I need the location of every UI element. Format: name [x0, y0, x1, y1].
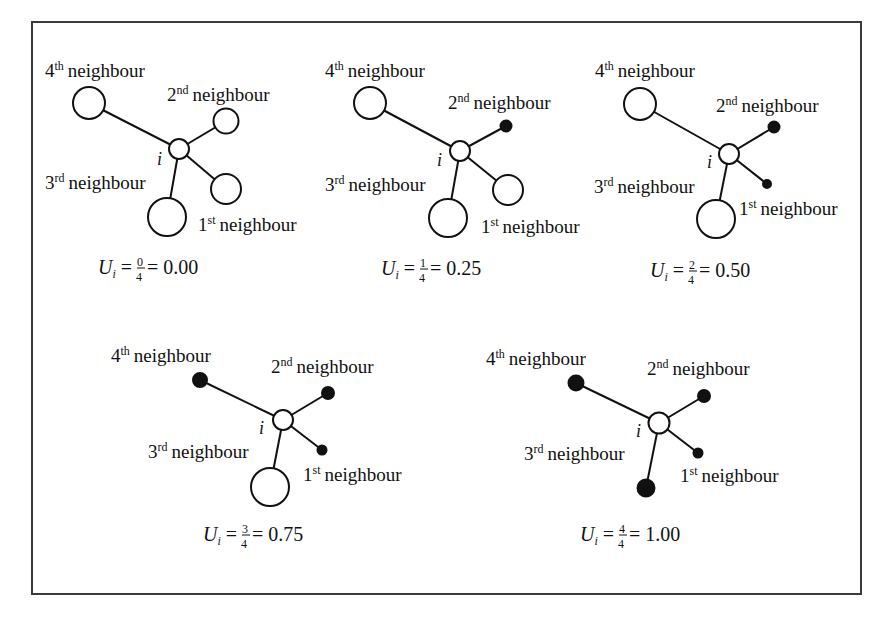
third-neighbour-node — [429, 199, 467, 237]
second-neighbour-label: 2ndneighbour — [647, 357, 750, 379]
panel-4 — [193, 373, 334, 506]
first-neighbour-label: 1stneighbour — [680, 464, 779, 486]
fourth-neighbour-node — [569, 376, 584, 391]
center-node-label: i — [259, 418, 264, 438]
second-neighbour-label: 2ndneighbour — [448, 91, 551, 113]
uncertainty-formula: Ui=14= 0.25 — [381, 256, 481, 285]
panel-4-labels: 4thneighbour 2ndneighbour 3rdneighbour 1… — [111, 344, 402, 551]
center-node-label: i — [437, 150, 442, 170]
second-neighbour-label: 2ndneighbour — [716, 94, 819, 116]
second-neighbour-label: 2ndneighbour — [271, 355, 374, 377]
uncertainty-formula: Ui=44= 1.00 — [580, 522, 680, 551]
fourth-neighbour-node — [354, 87, 386, 119]
panel-5-labels: 4thneighbour 2ndneighbour 3rdneighbour 1… — [486, 347, 779, 551]
center-node-i — [649, 413, 670, 434]
fourth-neighbour-node — [73, 87, 105, 119]
first-neighbour-label: 1stneighbour — [739, 197, 838, 219]
first-neighbour-label: 1stneighbour — [198, 213, 297, 235]
third-neighbour-label: 3rdneighbour — [325, 173, 426, 195]
first-neighbour-node — [318, 446, 327, 455]
center-node-i — [450, 141, 470, 161]
uncertainty-formula: Ui=04= 0.00 — [98, 255, 198, 284]
fourth-neighbour-node — [193, 373, 207, 387]
first-neighbour-node — [211, 174, 241, 204]
neighbour-uncertainty-diagram: 4thneighbour 2ndneighbour 3rdneighbour 1… — [0, 0, 890, 619]
third-neighbour-label: 3rdneighbour — [594, 175, 695, 197]
first-neighbour-label: 1stneighbour — [481, 215, 580, 237]
second-neighbour-node — [769, 122, 780, 133]
second-neighbour-node — [501, 121, 512, 132]
second-neighbour-label: 2ndneighbour — [167, 83, 270, 105]
fourth-neighbour-label: 4thneighbour — [111, 344, 212, 366]
second-neighbour-node — [698, 390, 710, 402]
first-neighbour-label: 1stneighbour — [303, 463, 402, 485]
fourth-neighbour-label: 4thneighbour — [325, 59, 426, 81]
second-neighbour-node — [322, 387, 334, 399]
first-neighbour-node — [493, 175, 523, 205]
first-neighbour-node — [694, 449, 703, 458]
center-node-label: i — [636, 421, 641, 441]
third-neighbour-node — [251, 468, 289, 506]
uncertainty-formula: Ui=34= 0.75 — [203, 522, 303, 551]
third-neighbour-node — [148, 198, 186, 236]
second-neighbour-node — [214, 109, 239, 134]
third-neighbour-node — [697, 200, 735, 238]
center-node-i — [169, 139, 189, 159]
fourth-neighbour-label: 4thneighbour — [486, 347, 587, 369]
third-neighbour-label: 3rdneighbour — [148, 440, 249, 462]
center-node-i — [273, 410, 293, 430]
fourth-neighbour-label: 4thneighbour — [595, 59, 696, 81]
third-neighbour-label: 3rdneighbour — [45, 171, 146, 193]
third-neighbour-node — [638, 480, 655, 497]
third-neighbour-label: 3rdneighbour — [524, 442, 625, 464]
fourth-neighbour-node — [624, 88, 656, 120]
uncertainty-formula: Ui=24= 0.50 — [650, 258, 750, 287]
center-node-i — [719, 144, 739, 164]
first-neighbour-node — [763, 180, 771, 188]
center-node-label: i — [157, 149, 162, 169]
fourth-neighbour-label: 4thneighbour — [45, 59, 146, 81]
center-node-label: i — [707, 152, 712, 172]
